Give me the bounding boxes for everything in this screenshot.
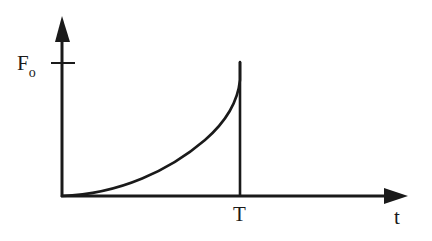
t-axis-label: t [394, 207, 400, 228]
f-o-label: Fo [17, 53, 36, 74]
f-label-subscript: o [29, 65, 36, 80]
T-tick-label: T [233, 204, 246, 225]
x-axis-arrow-icon [384, 188, 408, 204]
force-time-diagram: Fo T t [0, 0, 432, 241]
force-curve [62, 62, 240, 196]
f-label-main: F [17, 51, 29, 75]
y-axis-arrow-icon [55, 16, 70, 42]
diagram-canvas [0, 0, 432, 241]
